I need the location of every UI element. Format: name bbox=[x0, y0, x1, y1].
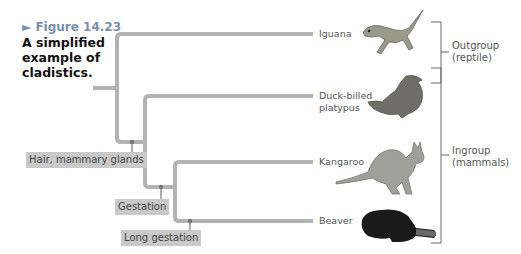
outgroup-sublabel: (reptile) bbox=[452, 52, 499, 64]
taxon-beaver: Beaver bbox=[319, 215, 353, 227]
taxon-iguana: Iguana bbox=[319, 28, 352, 40]
ingroup-label: Ingroup (mammals) bbox=[452, 145, 509, 169]
trait-hair-mammary-glands: Hair, mammary glands bbox=[26, 152, 147, 168]
iguana-illustration bbox=[355, 6, 425, 61]
outgroup-label: Outgroup (reptile) bbox=[452, 40, 499, 64]
ingroup-title: Ingroup bbox=[452, 145, 509, 157]
trait-long-gestation: Long gestation bbox=[121, 230, 201, 246]
outgroup-title: Outgroup bbox=[452, 40, 499, 52]
trait-gestation: Gestation bbox=[115, 199, 169, 215]
beaver-illustration bbox=[358, 206, 438, 244]
platypus-illustration bbox=[366, 72, 428, 122]
kangaroo-illustration bbox=[334, 138, 426, 200]
cladogram-branches bbox=[0, 0, 521, 254]
ingroup-sublabel: (mammals) bbox=[452, 157, 509, 169]
